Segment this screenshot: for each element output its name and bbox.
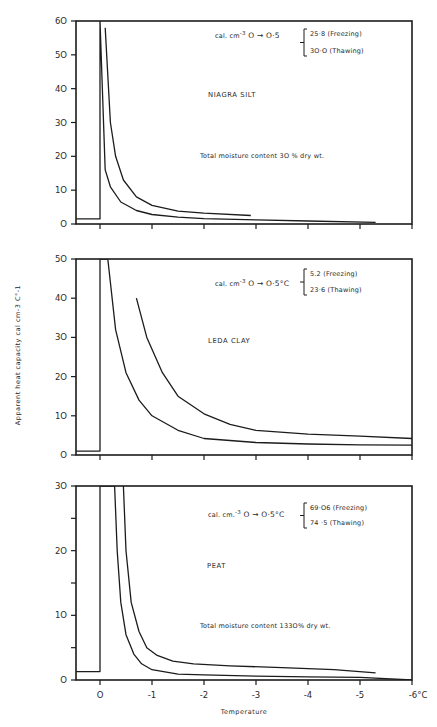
y-tick-label: 2O <box>55 546 67 556</box>
moisture-annotation: Total moisture content 3O % dry wt. <box>199 152 324 160</box>
y-tick-label: 3O <box>55 481 67 491</box>
moisture-annotation: Total moisture content 133O% dry wt. <box>199 622 331 630</box>
y-tick-label: O <box>60 219 67 229</box>
x-tick-label: -2 <box>200 690 208 700</box>
y-tick-label: 5O <box>55 50 67 60</box>
x-tick-label: O <box>97 690 104 700</box>
y-tick-label: 5O <box>55 254 67 264</box>
thawing-value: 3O·O (Thawing) <box>310 47 364 55</box>
y-tick-label: 1O <box>55 185 67 195</box>
x-tick-label: -6°C <box>409 690 428 700</box>
y-tick-label: 2O <box>55 151 67 161</box>
bracket <box>300 503 307 528</box>
x-tick-label: -3 <box>252 690 260 700</box>
x-tick-label: -1 <box>148 690 156 700</box>
panel-leda-clay: O1O2O3O4O5Ocal. cm-3 O → O·5°C5.2 (Freez… <box>55 254 412 460</box>
heat-capacity-figure: O1O2O3O4O5O6Ocal. cm-3 O → O·525·8 (Free… <box>0 0 437 727</box>
formula-annotation: cal. cm-3 O → O·5 <box>215 30 280 40</box>
panel-title: NIAGRA SILT <box>208 91 256 99</box>
y-tick-label: 4O <box>55 84 67 94</box>
y-tick-label: 3O <box>55 118 67 128</box>
y-tick-label: 1O <box>55 411 67 421</box>
thawing-value: 74 ·5 (Thawing) <box>310 519 364 527</box>
x-tick-label: -4 <box>304 690 312 700</box>
y-tick-label: O <box>60 675 67 685</box>
y-tick-label: 4O <box>55 293 67 303</box>
freezing-value: 69·O6 (Freezing) <box>310 504 367 512</box>
y-tick-label: 1O <box>55 610 67 620</box>
curve-thawing <box>136 298 412 438</box>
curve-thawing <box>105 28 251 216</box>
freezing-value: 5.2 (Freezing) <box>310 270 358 278</box>
y-tick-label: 2O <box>55 372 67 382</box>
x-axis-title: Temperature <box>220 708 268 716</box>
panel-title: LEDA CLAY <box>208 337 251 345</box>
panel-title: PEAT <box>207 562 226 570</box>
panel-niagra-silt: O1O2O3O4O5O6Ocal. cm-3 O → O·525·8 (Free… <box>55 16 412 229</box>
y-tick-label: 6O <box>55 16 67 26</box>
y-tick-label: 3O <box>55 332 67 342</box>
x-tick-label: -5 <box>356 690 364 700</box>
bracket <box>300 269 307 295</box>
panel-peat: O1O2O3Ocal. cm.-3 O → O·5°C69·O6 (Freezi… <box>55 481 412 685</box>
formula-annotation: cal. cm-3 O → O·5°C <box>215 278 289 288</box>
x-tick-labels: O-1-2-3-4-5-6°C <box>97 690 428 700</box>
y-tick-label: O <box>60 450 67 460</box>
y-axis-title: Apparent heat capacity cal cm-3 C°-1 <box>14 285 22 425</box>
bracket <box>300 29 307 56</box>
thawing-value: 23·6 (Thawing) <box>310 286 362 294</box>
formula-annotation: cal. cm.-3 O → O·5°C <box>208 509 284 519</box>
freezing-value: 25·8 (Freezing) <box>310 30 362 38</box>
